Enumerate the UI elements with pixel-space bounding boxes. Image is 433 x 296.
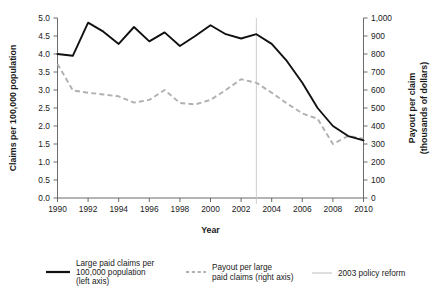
xtick-8: 2006	[293, 204, 312, 214]
x-axis: 1990 1992 1994 1996 1998 2000 2002 2004 …	[48, 198, 373, 214]
right-ytick-9: 900	[371, 31, 385, 41]
chart-legend: Large paid claims per 100,000 population…	[46, 259, 406, 286]
left-ytick-0: 0.0	[38, 193, 50, 203]
xtick-2: 1994	[109, 204, 128, 214]
left-ytick-5: 2.5	[38, 103, 50, 113]
right-axis-title-line2: (thousands of dollars)	[419, 62, 429, 154]
right-ytick-0: 0	[371, 193, 376, 203]
large-paid-claims-series	[58, 23, 364, 141]
xtick-9: 2008	[324, 204, 343, 214]
right-ytick-7: 700	[371, 67, 385, 77]
left-ytick-3: 1.5	[38, 139, 50, 149]
left-ytick-1: 0.5	[38, 175, 50, 185]
x-axis-title: Year	[201, 225, 220, 235]
xtick-3: 1996	[140, 204, 159, 214]
xtick-10: 2010	[354, 204, 373, 214]
left-ytick-10: 5.0	[38, 13, 50, 23]
left-ytick-7: 3.5	[38, 67, 50, 77]
right-ytick-4: 400	[371, 121, 385, 131]
left-axis: 0.0 0.5 1.0 1.5 2.0 2.5 3.0 3.5 4.0 4.5 …	[38, 13, 57, 203]
legend-item-0-line1: Large paid claims per	[76, 259, 155, 268]
legend-item-0-line2: 100,000 population	[76, 268, 146, 277]
xtick-6: 2002	[232, 204, 251, 214]
right-ytick-8: 800	[371, 49, 385, 59]
legend-item-1-line1: Payout per large	[212, 263, 273, 272]
right-ytick-5: 500	[371, 103, 385, 113]
right-ytick-3: 300	[371, 139, 385, 149]
xtick-5: 2000	[201, 204, 220, 214]
xtick-0: 1990	[48, 204, 67, 214]
xtick-7: 2004	[262, 204, 281, 214]
left-ytick-8: 4.0	[38, 49, 50, 59]
plot-area	[58, 18, 364, 204]
left-ytick-9: 4.5	[38, 31, 50, 41]
right-ytick-1: 100	[371, 175, 385, 185]
right-ytick-6: 600	[371, 85, 385, 95]
left-ytick-2: 1.0	[38, 157, 50, 167]
xtick-1: 1992	[79, 204, 98, 214]
left-ytick-6: 3.0	[38, 85, 50, 95]
chart-figure: 0.0 0.5 1.0 1.5 2.0 2.5 3.0 3.5 4.0 4.5 …	[0, 0, 433, 296]
legend-item-0-line3: (left axis)	[76, 277, 109, 286]
legend-item-1-line2: paid claims (right axis)	[212, 273, 294, 282]
right-axis-title-line1: Payout per claim	[407, 73, 417, 144]
payout-per-claim-series	[58, 64, 364, 144]
right-ytick-2: 200	[371, 157, 385, 167]
legend-item-2-line1: 2003 policy reform	[338, 269, 406, 278]
left-ytick-4: 2.0	[38, 121, 50, 131]
right-axis: 0 100 200 300 400 500 600 700 800 900 1,…	[364, 13, 393, 203]
xtick-4: 1998	[171, 204, 190, 214]
chart-canvas: 0.0 0.5 1.0 1.5 2.0 2.5 3.0 3.5 4.0 4.5 …	[0, 0, 433, 296]
left-axis-title: Claims per 100,000 population	[8, 45, 18, 172]
right-ytick-10: 1,000	[371, 13, 392, 23]
